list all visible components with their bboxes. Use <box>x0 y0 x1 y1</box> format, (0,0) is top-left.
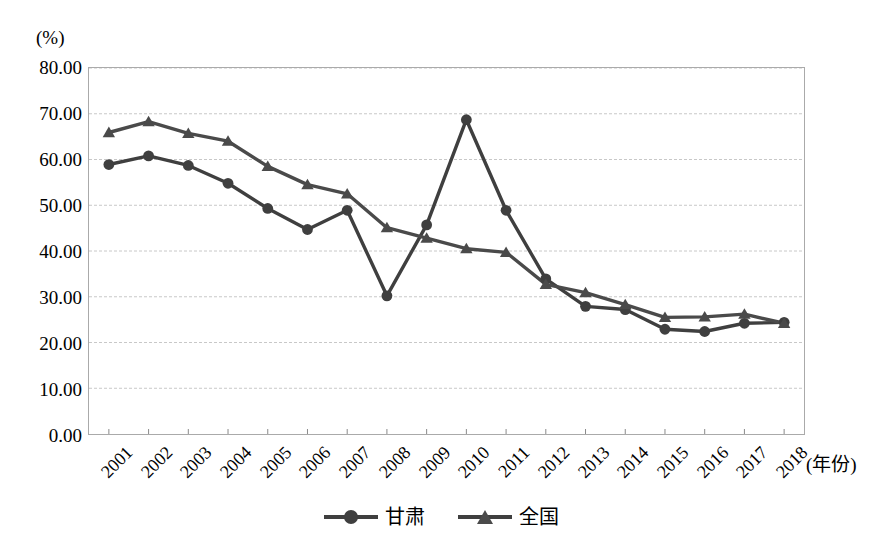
chart-figure: (%) 0.0010.0020.0030.0040.0050.0060.0070… <box>0 0 882 560</box>
legend-label-gansu: 甘肃 <box>385 502 425 532</box>
circle-marker-icon <box>324 506 378 528</box>
triangle-marker-icon <box>458 506 512 528</box>
legend-item-national[interactable]: 全国 <box>458 499 559 531</box>
legend-label-national: 全国 <box>519 502 559 532</box>
x-axis-title: (年份) <box>806 455 857 475</box>
chart-legend: 甘肃 全国 <box>0 498 882 532</box>
x-axis-tick-labels: 2001200220032004200520062007200820092010… <box>0 0 882 560</box>
legend-item-gansu[interactable]: 甘肃 <box>324 499 425 531</box>
